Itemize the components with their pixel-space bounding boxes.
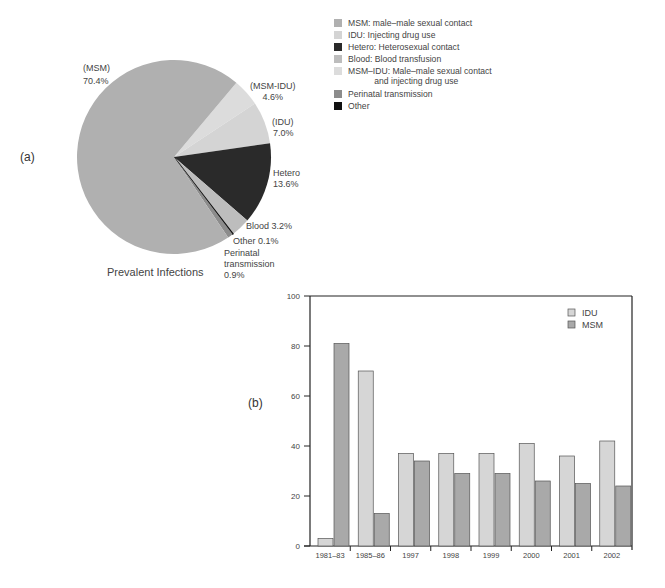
pie-label-hetero: Hetero 13.6% [273,168,300,190]
y-tick-label: 100 [287,292,301,301]
pie-legend: MSM: male–male sexual contactIDU: Inject… [334,18,492,113]
legend-label: Hetero: Heterosexual contact [348,42,459,52]
bar-msm [576,484,591,547]
bar-msm [455,474,470,547]
bar-idu [399,454,414,547]
legend-label-msm: MSM [582,320,603,330]
legend-swatch [334,31,342,39]
pie-label-msm: (MSM) 70.4% [83,63,110,87]
bar-series [318,344,631,547]
pie-label-perinatal: Perinatal transmission 0.9% [224,248,275,281]
pie-label-other: Other 0.1% [233,236,279,247]
y-tick-label: 20 [291,492,300,501]
bar-msm [415,461,430,546]
legend-swatch [334,19,342,27]
x-tick-label: 2001 [563,551,580,560]
x-tick-label: 1981–83 [316,551,345,560]
pie-label-perinatal-l3: 0.9% [224,270,275,281]
x-tick-label: 2000 [523,551,540,560]
pie-legend-item: MSM–IDU: Male–male sexual contact and in… [334,66,492,88]
bar-idu [519,444,534,547]
legend-swatch [334,67,342,75]
pie-label-idu-value: 7.0% [272,128,294,139]
legend-swatch [334,43,342,51]
legend-label: Other [348,101,370,111]
pie-legend-item: Blood: Blood transfusion [334,54,492,65]
pie-label-msm-idu-name: (MSM-IDU) [250,81,296,92]
y-tick-label: 60 [291,392,300,401]
bar-idu [358,371,373,546]
bar-idu [318,539,333,547]
legend-label: Perinatal transmission [348,89,433,99]
legend-swatch-idu [568,309,575,316]
bar-chart: 0204060801001981–831985–8619971998199920… [270,285,665,588]
pie-label-msm-idu-value: 4.6% [250,92,296,103]
y-tick-label: 80 [291,342,300,351]
y-tick-label: 0 [296,542,301,551]
bar-msm [616,486,631,546]
bar-idu [479,454,494,547]
legend-label-idu: IDU [582,308,598,318]
y-tick-label: 40 [291,442,300,451]
legend-swatch [334,55,342,63]
bar-legend: IDU MSM [568,308,603,330]
pie-label-hetero-name: Hetero [273,168,300,179]
pie-label-hetero-value: 13.6% [273,179,300,190]
bar-msm [334,344,349,547]
legend-label: MSM–IDU: Male–male sexual contact and in… [348,66,492,86]
pie-legend-item: Other [334,101,492,112]
bar-msm [535,481,550,546]
pie-label-msm-value: 70.4% [83,76,110,87]
legend-swatch [334,90,342,98]
pie-title: Prevalent Infections [107,266,204,278]
pie-label-perinatal-l2: transmission [224,259,275,270]
x-tick-label: 1997 [402,551,419,560]
legend-swatch [334,102,342,110]
bar-msm [374,514,389,547]
x-tick-label: 1998 [443,551,460,560]
legend-label: IDU: Injecting drug use [348,30,435,40]
pie-label-msm-idu: (MSM-IDU) 4.6% [250,81,296,103]
x-tick-label: 2002 [604,551,621,560]
pie-legend-item: MSM: male–male sexual contact [334,18,492,29]
pie-label-idu: (IDU) 7.0% [272,117,294,139]
pie-label-msm-name: (MSM) [83,63,110,74]
legend-label: Blood: Blood transfusion [348,54,441,64]
pie-label-perinatal-l1: Perinatal [224,248,275,259]
pie-legend-item: IDU: Injecting drug use [334,30,492,41]
pie-label-idu-name: (IDU) [272,117,294,128]
x-tick-label: 1999 [483,551,500,560]
legend-label: MSM: male–male sexual contact [348,18,472,28]
bar-idu [560,456,575,546]
bar-idu [600,441,615,546]
pie-slices [77,60,271,254]
panel-b-label: (b) [248,396,263,410]
pie-label-blood: Blood 3.2% [246,221,292,232]
pie-chart [0,0,330,290]
x-tick-label: 1985–86 [356,551,385,560]
pie-legend-item: Perinatal transmission [334,89,492,100]
legend-swatch-msm [568,321,575,328]
bar-idu [439,454,454,547]
bar-msm [495,474,510,547]
pie-legend-item: Hetero: Heterosexual contact [334,42,492,53]
